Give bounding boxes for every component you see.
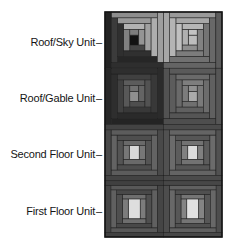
quilt-figure: Roof/Sky Unit– Roof/Gable Unit– Second F… xyxy=(0,0,232,243)
block-first-floor-right xyxy=(164,181,223,237)
block-second-floor-left xyxy=(105,125,164,181)
block-roof-sky-right xyxy=(164,12,223,68)
block-roof-gable-left xyxy=(105,68,164,124)
quilt-svg xyxy=(0,0,232,243)
block-second-floor-right xyxy=(164,125,223,181)
block-roof-sky-left xyxy=(105,12,164,68)
block-first-floor-left xyxy=(105,181,164,237)
block-roof-gable-right xyxy=(164,68,223,124)
